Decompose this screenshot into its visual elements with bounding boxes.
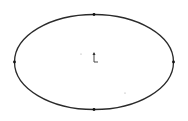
ellipse-sketch-canvas[interactable] <box>0 0 188 121</box>
left-quadrant-point[interactable] <box>13 61 16 64</box>
stray-dot <box>80 53 81 54</box>
top-quadrant-point[interactable] <box>93 13 96 16</box>
stray-dots <box>80 53 125 93</box>
bottom-quadrant-point[interactable] <box>93 108 96 111</box>
right-quadrant-point[interactable] <box>172 61 175 64</box>
coordinate-origin-icon <box>93 52 99 62</box>
stray-dot <box>124 92 125 93</box>
